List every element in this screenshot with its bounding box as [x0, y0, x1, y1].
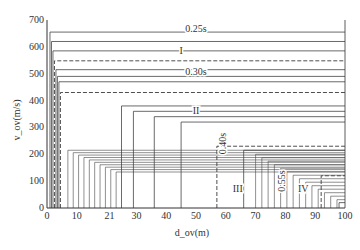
y-tick-label: 500: [29, 68, 44, 79]
annotation-label: 0.40s: [217, 133, 228, 155]
y-tick-label: 300: [29, 121, 44, 132]
x-axis-label: d_ov(m): [175, 227, 209, 239]
curve-curve-1: [50, 32, 345, 208]
annotation-label: I: [179, 45, 182, 56]
dense-curve: [287, 172, 345, 208]
x-tick-label: 40: [161, 210, 171, 221]
annotation-label: II: [193, 105, 200, 116]
dense-curve: [68, 150, 345, 208]
y-axis-label: v_ov(m/s): [11, 99, 23, 140]
x-tick-label: 90: [310, 210, 320, 221]
dense-curve: [331, 196, 345, 208]
dense-curve: [105, 167, 345, 208]
y-tick-label: 400: [29, 95, 44, 106]
annotations: 0.25sI0.30sII0.40sIII0.55sIV: [179, 23, 309, 194]
dense-curve: [116, 172, 345, 208]
y-tick-label: 100: [29, 175, 44, 186]
annotation-label: 0.55s: [276, 170, 287, 192]
x-tick-label: 50: [191, 210, 201, 221]
curve-curve-14: [244, 150, 345, 208]
y-tick-label: 0: [39, 202, 44, 213]
dense-curve: [337, 200, 345, 208]
chart: 0102130405060708090100010020030040050060…: [0, 0, 360, 250]
y-tick-label: 200: [29, 148, 44, 159]
x-tick-label: 0: [45, 210, 50, 221]
y-tick-label: 600: [29, 41, 44, 52]
annotation-label: 0.25s: [185, 23, 207, 34]
x-tick-label: 10: [72, 210, 82, 221]
x-tick-label: 80: [280, 210, 290, 221]
dense-curve: [281, 168, 345, 208]
y-tick-label: 700: [29, 14, 44, 25]
dense-curve: [324, 193, 345, 208]
annotation-label: III: [233, 183, 243, 194]
dense-curve: [318, 189, 345, 208]
dense-curve: [79, 155, 345, 208]
step-curves: [50, 32, 345, 208]
x-tick-label: 30: [131, 210, 141, 221]
annotation-label: IV: [298, 183, 309, 194]
annotation-label: 0.30s: [185, 66, 207, 77]
curve-curve-16: [339, 203, 345, 208]
x-tick-label: 21: [105, 210, 115, 221]
x-tick-label: 100: [338, 210, 353, 221]
x-tick-label: 60: [221, 210, 231, 221]
x-tick-label: 70: [251, 210, 261, 221]
